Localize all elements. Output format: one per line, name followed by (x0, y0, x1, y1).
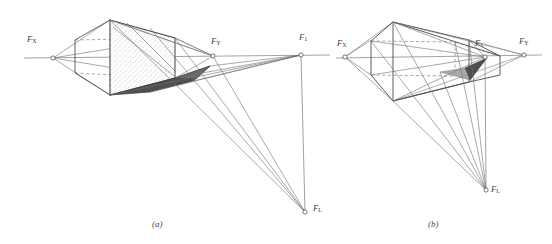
label-f1-b: F1 (475, 38, 483, 48)
panel-b (336, 22, 542, 192)
construction-lines-fy-b (393, 22, 524, 101)
horizon-line-b (336, 55, 542, 58)
panel-caption-b: (b) (428, 219, 439, 229)
perspective-shadow-diagram (0, 0, 552, 244)
vanishing-point-fx-a (51, 56, 55, 60)
figure-canvas: FX FY F1 FL FX F1 FY FL (a) (b) (0, 0, 552, 244)
panel-caption-a: (a) (152, 219, 163, 229)
label-fl-b: FL (491, 184, 500, 194)
light-rays-to-fl-a (110, 20, 305, 212)
light-ground-point-fl-a (303, 210, 307, 214)
vanishing-point-fy-b (522, 53, 526, 57)
vanishing-point-fy-a (211, 54, 215, 58)
label-fx-a: FX (27, 34, 37, 44)
light-ground-point-fl-b (484, 188, 488, 192)
vanishing-point-fx-b (343, 55, 347, 59)
label-fy-a: FY (211, 36, 221, 46)
label-fy-b: FY (519, 36, 529, 46)
light-source-point-f1-b (483, 55, 487, 59)
light-vertical-a (301, 55, 305, 212)
light-vertical-b (485, 57, 486, 190)
label-fx-b: FX (337, 38, 347, 48)
label-f1-a: F1 (299, 32, 307, 42)
light-source-point-f1-a (299, 53, 303, 57)
panel-a (24, 20, 330, 214)
construction-lines-fx-b (345, 22, 393, 101)
cast-shadow-edge-b (440, 68, 470, 80)
construction-lines-f1-b (371, 22, 485, 101)
label-fl-a: FL (313, 203, 322, 213)
